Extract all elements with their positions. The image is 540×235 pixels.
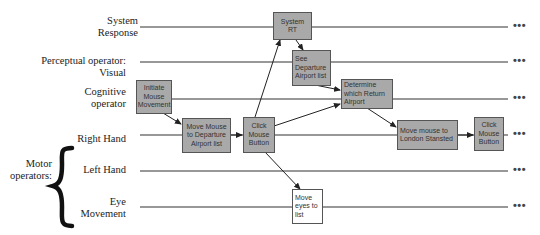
box-text: Move [295, 194, 318, 203]
box-text: Mouse [478, 130, 499, 139]
ellipsis-cognitive: ••• [513, 91, 526, 103]
box-text: eyes to [295, 202, 318, 211]
box-move-mouse-stansted: Move mouse to London Stansted [397, 120, 458, 150]
ellipsis-eye-movement: ••• [513, 199, 526, 211]
box-system-rt: System RT [273, 12, 312, 40]
box-click-mouse-button-1: Click Mouse Button [243, 117, 275, 153]
box-text: Click [478, 121, 499, 130]
box-text: Airport list [186, 140, 226, 149]
box-text: list [295, 211, 318, 220]
box-text: Departure [295, 64, 326, 73]
box-click-mouse-button-2: Click Mouse Button [474, 117, 504, 151]
box-text: System [281, 18, 304, 27]
box-text: London Stansted [400, 135, 453, 144]
box-text: RT [281, 26, 304, 35]
ellipsis-left-hand: ••• [513, 163, 526, 175]
box-initiate-mouse-movement: Initiate Mouse Movement [136, 80, 172, 114]
box-text: Determine [344, 81, 385, 90]
box-see-departure-list: See Departure Airport list [292, 50, 331, 86]
box-text: Button [478, 138, 499, 147]
box-text: Mouse [248, 131, 269, 140]
box-determine-return-airport: Determine which Return Airport [341, 79, 393, 109]
box-text: Button [248, 139, 269, 148]
box-text: Movement [138, 101, 171, 110]
box-text: Initiate [138, 84, 171, 93]
box-text: to Departure [186, 131, 226, 140]
box-text: Airport list [295, 72, 326, 81]
box-text: Airport [344, 98, 385, 107]
ellipsis-system-response: ••• [513, 19, 526, 31]
box-text: which Return [344, 90, 385, 99]
ellipsis-right-hand: ••• [513, 127, 526, 139]
box-move-eyes-to-list: Move eyes to list [292, 189, 323, 224]
box-text: Move mouse to [400, 127, 453, 136]
ellipsis-perceptual: ••• [513, 54, 526, 66]
box-text: Click [248, 122, 269, 131]
box-text: Mouse [138, 93, 171, 102]
box-text: Move Mouse [186, 123, 226, 132]
box-text: See [295, 55, 326, 64]
box-move-mouse-departure: Move Mouse to Departure Airport list [182, 118, 231, 153]
